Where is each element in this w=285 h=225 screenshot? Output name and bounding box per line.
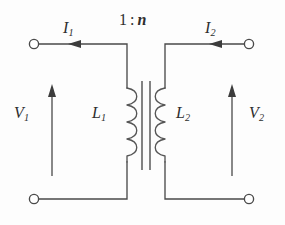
secondary-top-wire [165, 44, 244, 88]
label-voltage-secondary-symbol: V [249, 104, 259, 121]
label-voltage-primary-subscript: 1 [24, 112, 29, 123]
terminal-top-left[interactable] [29, 39, 38, 48]
label-voltage-primary-symbol: V [14, 104, 24, 121]
label-current-secondary-symbol: I [205, 19, 210, 36]
current-arrow-secondary [209, 40, 222, 48]
label-inductor-secondary-subscript: 2 [185, 112, 190, 123]
label-inductor-primary-symbol: L [92, 104, 101, 121]
voltage-arrow-primary [48, 84, 56, 176]
primary-coil-winding [127, 88, 137, 162]
label-inductor-primary-subscript: 1 [101, 112, 106, 123]
turns-ratio-primary: 1 [119, 11, 127, 28]
label-voltage-secondary-subscript: 2 [259, 112, 264, 123]
voltage-arrow-secondary [228, 84, 236, 176]
label-current-secondary: I2 [205, 20, 215, 36]
label-inductor-primary: L1 [92, 105, 106, 121]
current-arrow-primary [68, 40, 81, 48]
secondary-coil-winding [155, 88, 165, 162]
label-inductor-secondary-symbol: L [176, 104, 185, 121]
label-inductor-secondary: L2 [176, 105, 190, 121]
label-voltage-secondary: V2 [249, 105, 264, 121]
terminal-bottom-right[interactable] [244, 194, 253, 203]
primary-top-wire [39, 44, 127, 88]
terminal-top-right[interactable] [244, 39, 253, 48]
label-current-secondary-subscript: 2 [211, 27, 216, 38]
turns-ratio-separator: : [127, 11, 137, 28]
turns-ratio-label: 1:n [119, 12, 146, 28]
transformer-diagram: I1 I2 V1 V2 L1 L2 1:n [0, 0, 285, 225]
terminal-bottom-left[interactable] [29, 194, 38, 203]
label-current-primary-symbol: I [63, 19, 68, 36]
label-voltage-primary: V1 [14, 105, 29, 121]
circuit-schematic [0, 0, 285, 225]
label-current-primary-subscript: 1 [69, 27, 74, 38]
label-current-primary: I1 [63, 20, 73, 36]
turns-ratio-secondary: n [137, 11, 146, 28]
